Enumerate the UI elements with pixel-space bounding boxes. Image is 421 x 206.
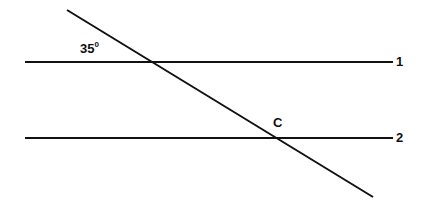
geometry-figure — [0, 0, 421, 206]
angle-value: 35 — [80, 41, 94, 56]
diagram-canvas: 350 1 2 C — [0, 0, 421, 206]
line-1-label: 1 — [396, 55, 403, 68]
point-c-label: C — [273, 116, 282, 129]
transversal-line — [67, 10, 373, 197]
line-2-label: 2 — [396, 131, 403, 144]
angle-label: 350 — [80, 42, 99, 55]
degree-mark: 0 — [94, 40, 98, 49]
